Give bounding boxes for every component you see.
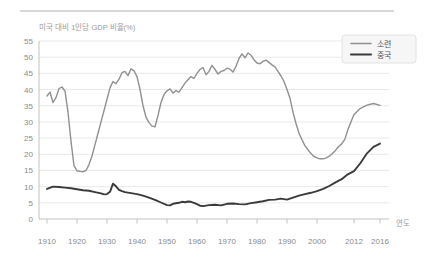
y-tick-label-20: 20 bbox=[24, 150, 33, 159]
x-tick-label-1980: 1980 bbox=[248, 237, 266, 246]
x-tick-label-2016: 2016 bbox=[371, 237, 389, 246]
chart-figure: 미국 대비 1인당 GDP 비율(%) 05101520253035404550… bbox=[0, 0, 428, 262]
series-line-china bbox=[47, 144, 380, 207]
legend-label-soviet: 소련 bbox=[377, 39, 391, 49]
x-tick-label-2012: 2012 bbox=[345, 237, 363, 246]
x-tick-label-1930: 1930 bbox=[98, 237, 116, 246]
y-tick-label-15: 15 bbox=[24, 166, 33, 175]
x-tick-label-1950: 1950 bbox=[158, 237, 176, 246]
y-tick-label-55: 55 bbox=[24, 37, 33, 46]
x-tick-label-1970: 1970 bbox=[218, 237, 236, 246]
x-tick-label-2000: 2000 bbox=[308, 237, 326, 246]
gridlines bbox=[39, 41, 389, 203]
y-tick-label-10: 10 bbox=[24, 183, 33, 192]
x-tick-label-1960: 1960 bbox=[188, 237, 206, 246]
x-tick-label-1920: 1920 bbox=[68, 237, 86, 246]
y-tick-label-35: 35 bbox=[24, 102, 33, 111]
legend: 소련중국 bbox=[342, 35, 416, 63]
x-tick-label-1990: 1990 bbox=[278, 237, 296, 246]
y-axis-tick-labels: 0510152025303540455055 bbox=[24, 37, 33, 224]
x-axis-tick-labels: 1910192019301940195019601970198019902000… bbox=[38, 237, 389, 246]
y-tick-label-50: 50 bbox=[24, 53, 33, 62]
line-chart: 미국 대비 1인당 GDP 비율(%) 05101520253035404550… bbox=[0, 0, 428, 262]
y-tick-label-5: 5 bbox=[29, 199, 34, 208]
x-axis-unit-label: 연도 bbox=[396, 219, 410, 228]
x-tick-label-1940: 1940 bbox=[128, 237, 146, 246]
chart-title: 미국 대비 1인당 GDP 비율(%) bbox=[39, 22, 136, 32]
series-lines bbox=[47, 53, 380, 206]
y-tick-label-30: 30 bbox=[24, 118, 33, 127]
y-tick-label-0: 0 bbox=[29, 215, 34, 224]
y-tick-label-25: 25 bbox=[24, 134, 33, 143]
x-tick-label-1910: 1910 bbox=[38, 237, 56, 246]
y-tick-label-40: 40 bbox=[24, 86, 33, 95]
legend-label-china: 중국 bbox=[377, 51, 391, 60]
y-tick-label-45: 45 bbox=[24, 69, 33, 78]
